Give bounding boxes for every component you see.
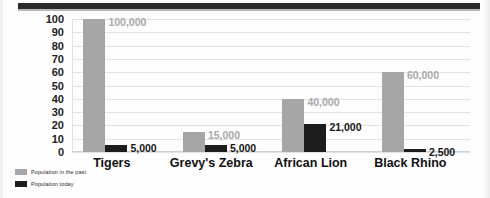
y-axis-tick: 20 xyxy=(52,119,64,131)
plot-area: 100,0005,00015,0005,00040,00021,00060,00… xyxy=(72,19,470,152)
y-axis-tick: 10 xyxy=(52,133,64,145)
y-axis-tick-labels: 1009080706050403020100 xyxy=(30,19,68,152)
bar-group: 60,0002,500 xyxy=(371,19,471,152)
bar-value-label: 5,000 xyxy=(230,142,256,154)
legend-label: Population in the past xyxy=(31,169,86,175)
y-axis-tick: 40 xyxy=(52,93,64,105)
chart-screenshot: Thousands of Animals 1009080706050403020… xyxy=(0,0,490,198)
legend-label: Population today xyxy=(31,181,74,187)
bar-group: 40,00021,000 xyxy=(271,19,371,152)
bar-past xyxy=(183,132,205,152)
y-axis-tick: 60 xyxy=(52,66,64,78)
x-axis-category-labels: TigersGrevy's ZebraAfrican LionBlack Rhi… xyxy=(72,156,470,174)
y-axis-tick: 0 xyxy=(58,146,64,158)
y-axis-tick: 70 xyxy=(52,53,64,65)
page-left-edge xyxy=(0,0,3,198)
bar-past xyxy=(282,99,304,152)
bar-today xyxy=(105,145,127,152)
category-label: African Lion xyxy=(274,156,347,170)
category-label: Black Rhino xyxy=(374,156,446,170)
bar-past xyxy=(382,72,404,152)
bar-value-label: 21,000 xyxy=(329,121,361,133)
bar-group: 15,0005,000 xyxy=(172,19,272,152)
legend-item: Population today xyxy=(15,179,86,188)
y-axis-tick: 50 xyxy=(52,80,64,92)
y-axis-tick: 80 xyxy=(52,40,64,52)
bar-today xyxy=(304,124,326,152)
bar-group: 100,0005,000 xyxy=(72,19,172,152)
legend-item: Population in the past xyxy=(15,167,86,176)
bar-value-label: 100,000 xyxy=(108,16,146,28)
legend-swatch-icon xyxy=(15,181,27,187)
y-axis-tick: 100 xyxy=(46,13,64,25)
y-axis-tick: 90 xyxy=(52,26,64,38)
y-axis-tick: 30 xyxy=(52,106,64,118)
bar-value-label: 60,000 xyxy=(407,69,439,81)
chart-legend: Population in the pastPopulation today xyxy=(15,167,86,191)
bar-value-label: 5,000 xyxy=(130,142,156,154)
bar-today xyxy=(205,145,227,152)
bar-past xyxy=(83,19,105,152)
legend-swatch-icon xyxy=(15,169,27,175)
category-label: Grevy's Zebra xyxy=(170,156,253,170)
top-strip-shadow xyxy=(18,9,480,11)
category-label: Tigers xyxy=(93,156,130,170)
bar-value-label: 40,000 xyxy=(307,96,339,108)
bar-value-label: 15,000 xyxy=(208,129,240,141)
bar-today xyxy=(404,149,426,152)
page-right-edge xyxy=(482,0,490,198)
